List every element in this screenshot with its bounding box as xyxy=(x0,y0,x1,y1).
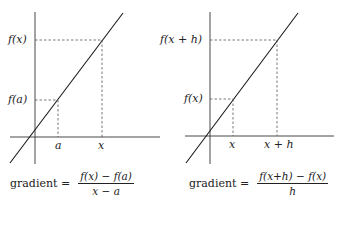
right-gradient-word: gradient = xyxy=(189,177,249,190)
right-fraction-bar xyxy=(257,183,328,184)
left-numerator: f(x) − f(a) xyxy=(78,170,134,182)
right-label-xh: x + h xyxy=(264,139,294,151)
left-label-fa: f(a) xyxy=(8,94,27,106)
left-denominator: x − a xyxy=(90,185,122,197)
right-label-x: x xyxy=(229,139,235,151)
left-fraction: f(x) − f(a) x − a xyxy=(78,170,134,197)
right-gradient-formula: gradient = f(x+h) − f(x) h xyxy=(189,170,328,197)
right-label-fx: f(x) xyxy=(184,93,203,105)
right-label-fxh: f(x + h) xyxy=(160,34,202,46)
left-fraction-bar xyxy=(78,183,134,184)
left-label-a: a xyxy=(55,140,62,152)
left-gradient-word: gradient = xyxy=(10,177,70,190)
right-numerator: f(x+h) − f(x) xyxy=(257,170,328,182)
left-gradient-formula: gradient = f(x) − f(a) x − a xyxy=(10,170,134,197)
left-label-x: x xyxy=(98,140,104,152)
left-label-fx: f(x) xyxy=(8,34,27,46)
right-denominator: h xyxy=(287,185,298,197)
right-fraction: f(x+h) − f(x) h xyxy=(257,170,328,197)
